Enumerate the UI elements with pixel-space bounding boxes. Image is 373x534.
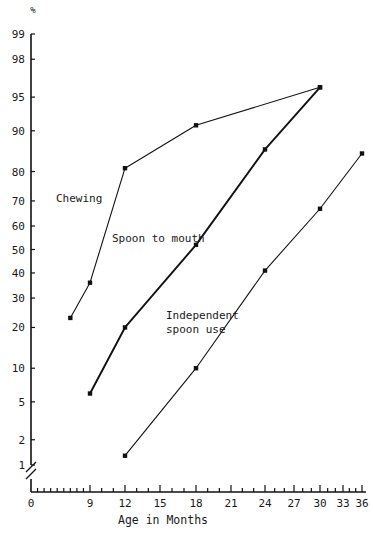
data-point-marker: [88, 391, 92, 395]
data-point-marker: [318, 85, 322, 89]
chart-container: % 125102030405060708090959899 0912151821…: [0, 0, 373, 534]
series-line: [125, 153, 362, 455]
data-point-marker: [88, 281, 92, 285]
data-point-marker: [318, 207, 322, 211]
milestone-chart-svg: % 125102030405060708090959899 0912151821…: [0, 0, 373, 534]
x-tick-label: 24: [258, 497, 272, 510]
data-point-marker: [123, 325, 127, 329]
series-label-independent-spoon-use-line2: spoon use: [166, 323, 226, 336]
x-axis-title: Age in Months: [118, 513, 208, 527]
data-point-marker: [68, 316, 72, 320]
y-tick-label: 20: [12, 321, 25, 334]
x-tick-label: 30: [313, 497, 326, 510]
series-layer: [68, 85, 364, 458]
x-tick-label: 33: [336, 497, 349, 510]
x-tick-label: 12: [118, 497, 131, 510]
y-axis-group: % 125102030405060708090959899: [12, 5, 37, 492]
x-tick-label: 36: [355, 497, 368, 510]
x-axis-group: 09121518212427303336 Age in Months: [28, 485, 369, 527]
series-label-chewing: Chewing: [56, 192, 102, 205]
data-point-marker: [263, 268, 267, 272]
y-tick-label: 70: [12, 195, 25, 208]
series-label-independent-spoon-use-line1: Independent: [166, 309, 239, 322]
y-tick-labels: 125102030405060708090959899: [12, 28, 25, 472]
series-independent-spoon-use: [123, 151, 364, 458]
y-tick-label: 10: [12, 362, 25, 375]
data-point-marker: [123, 454, 127, 458]
x-tick-labels: 09121518212427303336: [28, 497, 369, 510]
series-annotations: Chewing Spoon to mouth Independent spoon…: [56, 192, 239, 336]
data-point-marker: [194, 366, 198, 370]
x-tick-label: 18: [189, 497, 202, 510]
x-tick-label: 27: [287, 497, 300, 510]
series-line: [70, 87, 320, 318]
x-tick-label: 21: [224, 497, 237, 510]
series-label-spoon-to-mouth: Spoon to mouth: [112, 232, 205, 245]
y-tick-label: 90: [12, 125, 25, 138]
y-tick-label: 1: [18, 459, 25, 472]
series-chewing: [68, 85, 322, 320]
y-tick-label: 60: [12, 220, 25, 233]
y-tick-label: 40: [12, 267, 25, 280]
y-tick-label: 30: [12, 292, 25, 305]
data-point-marker: [263, 147, 267, 151]
data-point-marker: [123, 166, 127, 170]
y-tick-label: 95: [12, 91, 25, 104]
y-tick-label: 50: [12, 244, 25, 257]
y-tick-label: 80: [12, 166, 25, 179]
data-point-marker: [194, 123, 198, 127]
x-tick-marks: [38, 485, 362, 492]
y-axis-unit-label: %: [30, 5, 36, 15]
x-tick-label: 9: [87, 497, 94, 510]
y-tick-label: 98: [12, 53, 25, 66]
y-tick-label: 99: [12, 28, 25, 41]
x-tick-label: 0: [28, 497, 35, 510]
x-tick-label: 15: [153, 497, 166, 510]
data-point-marker: [360, 151, 364, 155]
y-tick-label: 5: [18, 396, 25, 409]
y-tick-label: 2: [18, 434, 25, 447]
